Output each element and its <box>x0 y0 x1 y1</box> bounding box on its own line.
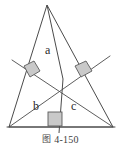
right-angle-marker-base <box>48 112 62 126</box>
right-angle-marker-left <box>24 61 40 77</box>
altitude-from-apex <box>47 5 63 79</box>
figure-container: a b c 图 4-150 <box>0 0 121 153</box>
label-c: c <box>71 99 76 113</box>
caption-number: 4-150 <box>54 134 78 145</box>
label-b: b <box>33 99 39 113</box>
label-a: a <box>45 43 51 57</box>
figure-caption: 图 4-150 <box>0 134 121 153</box>
caption-cjk-glyph: 图 <box>42 134 51 145</box>
right-angle-marker-right <box>75 61 92 77</box>
triangle-altitudes-diagram: a b c <box>0 0 121 133</box>
